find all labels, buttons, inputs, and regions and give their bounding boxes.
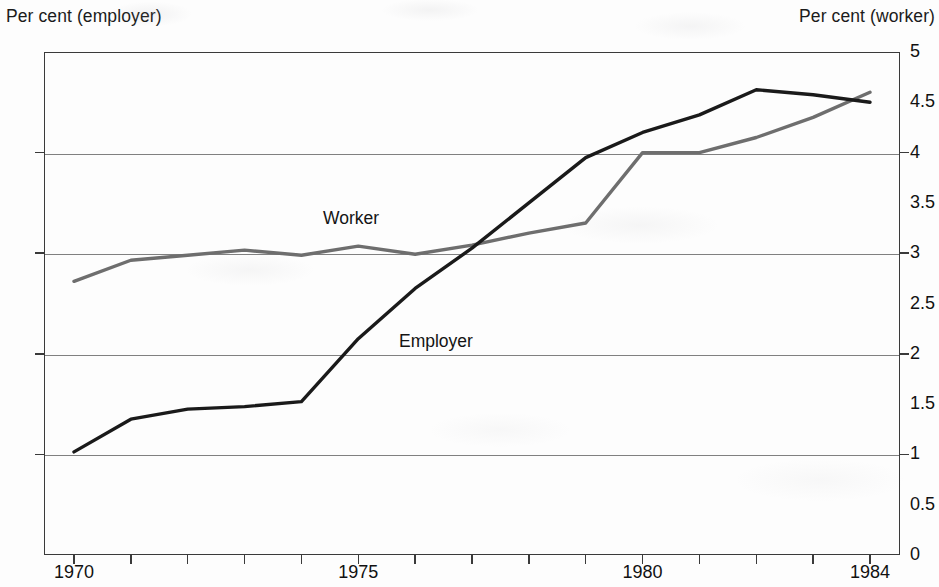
employer-line — [74, 90, 870, 452]
chart-figure: Per cent (employer) Per cent (worker) 22… — [0, 0, 939, 587]
series-lines — [0, 0, 939, 587]
worker-line — [74, 92, 870, 281]
